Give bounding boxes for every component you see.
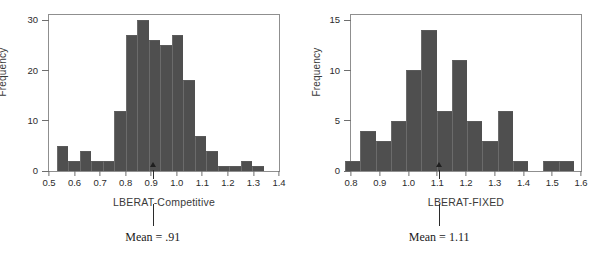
x-tick-label: 0.9 [373, 178, 386, 188]
panel-lberat-competitive: Frequency 0102030 0.50.60.70.80.91.01.11… [0, 0, 306, 258]
x-axis-title: LBERAT-Competitive [48, 196, 280, 208]
x-tick: 0.7 [94, 171, 107, 188]
x-tick: 0.8 [344, 171, 357, 188]
y-tick-mark [42, 70, 49, 71]
x-axis-ticks-left: 0.50.60.70.80.91.01.11.21.31.4 [49, 171, 279, 197]
x-tick-label: 1.3 [247, 178, 260, 188]
x-tick-mark [74, 171, 75, 176]
histogram-bar [80, 151, 92, 171]
x-tick-mark [176, 171, 177, 176]
x-tick: 1.2 [459, 171, 472, 188]
x-tick-mark [49, 171, 50, 176]
x-tick: 1.1 [431, 171, 444, 188]
x-tick-mark [379, 171, 380, 176]
y-tick-label: 30 [27, 15, 38, 25]
x-tick-label: 0.6 [68, 178, 81, 188]
x-tick-mark [100, 171, 101, 176]
y-axis-title: Frequency [0, 47, 8, 96]
x-tick-mark [253, 171, 254, 176]
y-tick-mark [42, 120, 49, 121]
x-tick-label: 1.2 [221, 178, 234, 188]
mean-annotation-right: Mean = 1.11 [409, 230, 470, 245]
x-tick: 1.4 [517, 171, 530, 188]
x-tick: 1.0 [170, 171, 183, 188]
histogram-bar [160, 45, 172, 171]
x-tick: 1.3 [247, 171, 260, 188]
y-tick-label: 0 [33, 166, 38, 176]
histogram-bar [91, 161, 103, 171]
x-tick-mark [227, 171, 228, 176]
histogram-bar [68, 161, 80, 171]
x-tick-mark [151, 171, 152, 176]
histogram-bar [195, 136, 207, 171]
histogram-bar [172, 35, 184, 171]
x-tick: 1.6 [574, 171, 587, 188]
x-tick: 1.4 [272, 171, 285, 188]
x-tick-label: 1.0 [402, 178, 415, 188]
histogram-bar [206, 151, 218, 171]
y-tick-label: 10 [329, 66, 340, 76]
x-tick: 1.1 [196, 171, 209, 188]
histogram-bar [559, 161, 574, 171]
histogram-bar [513, 161, 528, 171]
histogram-bar [137, 20, 149, 171]
x-tick-label: 0.8 [119, 178, 132, 188]
x-tick-label: 0.7 [94, 178, 107, 188]
x-tick: 1.3 [488, 171, 501, 188]
panel-lberat-fixed: Frequency 051015 0.80.91.01.11.21.31.41.… [306, 0, 612, 258]
plot-area-left: 0102030 0.50.60.70.80.91.01.11.21.31.4 [48, 14, 280, 172]
bars-right [351, 15, 581, 171]
y-tick-label: 15 [329, 15, 340, 25]
y-tick-mark [344, 120, 351, 121]
histogram-bar [103, 161, 115, 171]
histogram-bar [452, 60, 467, 171]
x-tick-label: 0.9 [145, 178, 158, 188]
x-tick-label: 0.5 [42, 178, 55, 188]
x-tick-mark [351, 171, 352, 176]
x-tick-label: 1.4 [517, 178, 530, 188]
x-tick-label: 1.2 [459, 178, 472, 188]
x-tick-mark [494, 171, 495, 176]
histogram-bar [241, 161, 253, 171]
x-tick: 0.9 [145, 171, 158, 188]
y-tick-mark [344, 20, 351, 21]
plot-area-right: 051015 0.80.91.01.11.21.31.41.51.6 [350, 14, 582, 172]
y-tick-label: 0 [335, 166, 340, 176]
histogram-bar [360, 131, 375, 171]
x-tick: 1.2 [221, 171, 234, 188]
y-axis-title: Frequency [311, 47, 322, 96]
histogram-bar [482, 141, 497, 171]
y-tick-label: 5 [335, 116, 340, 126]
x-tick-mark [466, 171, 467, 176]
histogram-bar [467, 121, 482, 171]
x-tick-mark [581, 171, 582, 176]
histogram-bar [498, 111, 513, 171]
mean-tick-left [153, 170, 154, 179]
x-tick: 1.5 [546, 171, 559, 188]
histogram-bar [391, 121, 406, 171]
x-tick-mark [552, 171, 553, 176]
x-tick-label: 1.1 [431, 178, 444, 188]
x-tick: 0.8 [119, 171, 132, 188]
histogram-bar [406, 70, 421, 171]
mean-tick-right [439, 170, 440, 179]
x-tick-label: 1.5 [546, 178, 559, 188]
histogram-figure: Frequency 0102030 0.50.60.70.80.91.01.11… [0, 0, 612, 258]
histogram-bar [543, 161, 558, 171]
y-tick-label: 20 [27, 66, 38, 76]
x-axis-ticks-right: 0.80.91.01.11.21.31.41.51.6 [351, 171, 581, 197]
mean-arrow-icon-right [436, 162, 442, 167]
histogram-bar [57, 146, 69, 171]
bars-left [49, 15, 279, 171]
x-tick: 0.6 [68, 171, 81, 188]
histogram-bar [376, 141, 391, 171]
mean-stem-left [153, 204, 154, 226]
histogram-bar [183, 80, 195, 171]
histogram-bar [345, 161, 360, 171]
x-axis-title: LBERAT-FIXED [350, 196, 582, 208]
x-tick-mark [202, 171, 203, 176]
mean-annotation-left: Mean = .91 [125, 230, 180, 245]
x-tick: 1.0 [402, 171, 415, 188]
x-tick-label: 1.6 [574, 178, 587, 188]
x-tick-label: 0.8 [344, 178, 357, 188]
